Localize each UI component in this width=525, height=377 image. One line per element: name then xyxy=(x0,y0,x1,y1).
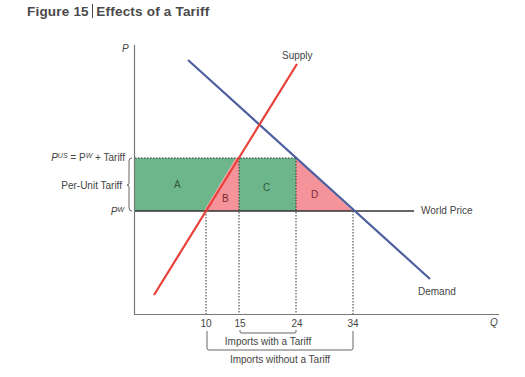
tariff-chart: P Q PUS = PW + Tariff Per-Unit Tariff PW… xyxy=(0,0,525,377)
tick-34: 34 xyxy=(347,318,359,329)
imports-with-tariff-label: Imports with a Tariff xyxy=(225,336,312,347)
supply-label: Supply xyxy=(282,50,313,61)
region-a-label: A xyxy=(174,179,181,190)
region-c-label: C xyxy=(263,182,270,193)
per-unit-tariff-bracket xyxy=(127,158,132,211)
p-axis-label: P xyxy=(122,43,129,54)
pw-label: PW xyxy=(111,206,126,217)
imports-without-tariff-label: Imports without a Tariff xyxy=(230,354,330,365)
demand-label: Demand xyxy=(418,286,456,297)
world-price-label: World Price xyxy=(421,205,473,216)
tick-15: 15 xyxy=(234,318,246,329)
region-d-label: D xyxy=(311,189,318,200)
per-unit-tariff-label: Per-Unit Tariff xyxy=(61,180,122,191)
imports-with-tariff-bracket xyxy=(240,330,296,333)
q-axis-label: Q xyxy=(490,317,498,328)
pus-label: PUS = PW + Tariff xyxy=(51,152,125,163)
tick-10: 10 xyxy=(200,318,212,329)
region-b-label: B xyxy=(222,193,229,204)
tick-24: 24 xyxy=(291,318,303,329)
